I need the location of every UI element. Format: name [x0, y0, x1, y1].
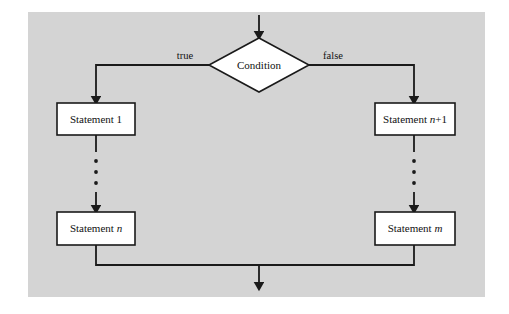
- false-branch-edge: [309, 65, 414, 98]
- left-merge-edge: [96, 245, 259, 265]
- statement-n-var: n: [117, 222, 123, 234]
- statement-m-label: Statement m: [388, 222, 443, 234]
- false-edge-label: false: [323, 50, 343, 61]
- statement-n-plus-1-prefix: Statement: [383, 113, 430, 125]
- statement-n-label: Statement n: [70, 222, 123, 234]
- condition-label: Condition: [237, 59, 282, 71]
- right-ellipsis-dot: [412, 181, 416, 185]
- right-merge-edge: [259, 245, 414, 265]
- statement-1-label: Statement 1: [70, 113, 122, 125]
- statement-m-var: m: [434, 222, 442, 234]
- right-ellipsis-dot: [412, 170, 416, 174]
- true-edge-label: true: [177, 50, 194, 61]
- flowchart-canvas: Condition true false Statement 1 Stateme…: [0, 0, 509, 314]
- statement-m-prefix: Statement: [388, 222, 435, 234]
- statement-n-plus-1-label: Statement n+1: [383, 113, 447, 125]
- left-ellipsis-dot: [94, 181, 98, 185]
- right-ellipsis-dot: [412, 159, 416, 163]
- left-ellipsis-dot: [94, 159, 98, 163]
- flowchart-figure: Condition true false Statement 1 Stateme…: [0, 0, 509, 314]
- left-ellipsis-dot: [94, 170, 98, 174]
- statement-n-prefix: Statement: [70, 222, 117, 234]
- statement-n-plus-1-suffix: +1: [435, 113, 447, 125]
- true-branch-edge: [96, 65, 209, 98]
